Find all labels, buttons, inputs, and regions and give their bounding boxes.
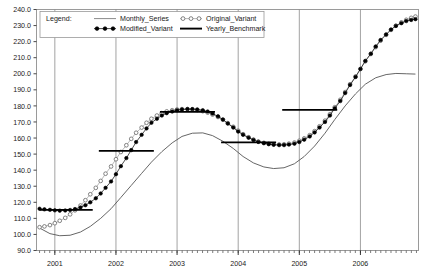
ytick-label-140.0: 140.0 <box>13 167 31 175</box>
marker-modified-variant <box>114 172 118 176</box>
marker-original-variant <box>38 225 42 229</box>
marker-modified-variant <box>364 59 368 63</box>
xtick-label-2005: 2005 <box>291 260 307 268</box>
marker-original-variant <box>125 143 129 147</box>
marker-original-variant <box>63 216 67 220</box>
marker-modified-variant <box>99 192 103 196</box>
marker-modified-variant <box>94 197 98 201</box>
marker-modified-variant <box>180 108 184 112</box>
xtick-label-2003: 2003 <box>169 260 185 268</box>
marker-original-variant <box>94 186 98 190</box>
marker-modified-variant <box>293 142 297 146</box>
marker-original-variant <box>88 192 92 196</box>
legend-swatch-original-variant <box>189 17 193 21</box>
marker-modified-variant <box>400 21 404 25</box>
marker-modified-variant <box>379 38 383 42</box>
marker-modified-variant <box>384 33 388 37</box>
chart-container: 90.0100.0110.0120.0130.0140.0150.0160.01… <box>0 0 428 277</box>
marker-modified-variant <box>191 107 195 111</box>
marker-modified-variant <box>409 18 413 22</box>
marker-modified-variant <box>252 138 256 142</box>
marker-modified-variant <box>339 99 343 103</box>
marker-modified-variant <box>323 120 327 124</box>
marker-modified-variant <box>79 206 83 210</box>
marker-modified-variant <box>389 28 393 32</box>
marker-modified-variant <box>313 131 317 135</box>
marker-modified-variant <box>359 67 363 71</box>
plot-frame <box>37 10 419 251</box>
ytick-label-210.0: 210.0 <box>13 54 31 62</box>
marker-modified-variant <box>308 135 312 139</box>
marker-original-variant <box>109 165 113 169</box>
marker-modified-variant <box>241 133 245 137</box>
ytick-label-160.0: 160.0 <box>13 135 31 143</box>
marker-original-variant <box>68 213 72 217</box>
ytick-label-130.0: 130.0 <box>13 183 31 191</box>
marker-original-variant <box>145 121 149 125</box>
xtick-label-2002: 2002 <box>108 260 124 268</box>
marker-modified-variant <box>318 126 322 130</box>
marker-modified-variant <box>236 130 240 134</box>
ytick-label-110.0: 110.0 <box>14 215 31 223</box>
ytick-label-120.0: 120.0 <box>13 199 31 207</box>
legend-swatch-original-variant <box>197 17 201 21</box>
marker-modified-variant <box>369 52 373 56</box>
marker-modified-variant <box>226 122 230 126</box>
legend-label-original-variant: Original_Variant <box>206 15 256 23</box>
ytick-label-150.0: 150.0 <box>13 151 31 159</box>
marker-modified-variant <box>134 140 138 144</box>
marker-original-variant <box>129 137 133 141</box>
marker-modified-variant <box>343 91 347 95</box>
marker-original-variant <box>53 221 57 225</box>
ytick-label-180.0: 180.0 <box>13 103 31 111</box>
ytick-label-190.0: 190.0 <box>13 86 31 94</box>
legend-title: Legend: <box>46 15 72 23</box>
marker-original-variant <box>48 223 52 227</box>
ytick-label-100.0: 100.0 <box>13 231 31 239</box>
marker-original-variant <box>114 157 118 161</box>
marker-modified-variant <box>277 143 281 147</box>
ytick-label-220.0: 220.0 <box>13 38 31 46</box>
ytick-label-90.0: 90.0 <box>17 247 31 255</box>
xtick-label-2006: 2006 <box>353 260 369 268</box>
marker-original-variant <box>43 225 47 229</box>
marker-modified-variant <box>221 118 225 122</box>
legend-label-modified-variant: Modified_Variant <box>120 25 173 33</box>
marker-modified-variant <box>104 186 108 190</box>
marker-modified-variant <box>125 156 129 160</box>
legend-label-yearly-benchmark: Yearly_Benchmark <box>206 25 266 33</box>
marker-original-variant <box>140 126 144 130</box>
marker-modified-variant <box>405 19 409 23</box>
marker-original-variant <box>84 198 88 202</box>
marker-modified-variant <box>89 201 93 205</box>
marker-modified-variant <box>186 107 190 111</box>
marker-modified-variant <box>328 114 332 118</box>
marker-modified-variant <box>247 136 251 140</box>
marker-modified-variant <box>109 180 113 184</box>
marker-modified-variant <box>287 143 291 147</box>
marker-original-variant <box>104 172 108 176</box>
marker-modified-variant <box>348 83 352 87</box>
marker-modified-variant <box>232 126 236 130</box>
marker-modified-variant <box>160 114 164 118</box>
marker-original-variant <box>58 219 62 223</box>
marker-modified-variant <box>302 138 306 142</box>
marker-modified-variant <box>298 140 302 144</box>
xtick-label-2004: 2004 <box>230 260 246 268</box>
marker-modified-variant <box>150 121 154 125</box>
chart-svg: 90.0100.0110.0120.0130.0140.0150.0160.01… <box>0 0 428 277</box>
marker-modified-variant <box>84 203 88 207</box>
marker-modified-variant <box>216 115 220 119</box>
marker-modified-variant <box>394 24 398 28</box>
ytick-label-230.0: 230.0 <box>13 22 31 30</box>
marker-original-variant <box>134 131 138 135</box>
marker-modified-variant <box>282 143 286 147</box>
marker-modified-variant <box>374 45 378 49</box>
marker-modified-variant <box>145 127 149 131</box>
legend-label-monthly-series: Monthly_Series <box>120 15 169 23</box>
legend-swatch-original-variant <box>181 17 185 21</box>
ytick-label-240.0: 240.0 <box>13 6 31 14</box>
marker-modified-variant <box>119 164 123 168</box>
ytick-label-170.0: 170.0 <box>13 119 31 127</box>
ytick-label-200.0: 200.0 <box>13 70 31 78</box>
